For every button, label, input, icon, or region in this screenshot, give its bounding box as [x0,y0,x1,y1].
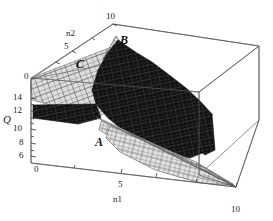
z-tick-10: 10 [13,124,22,133]
x-axis-title: n1 [113,195,122,204]
z-tick-14: 14 [13,93,22,102]
x-tick-0: 0 [34,165,39,174]
region-label-c: C [76,58,84,70]
region-label-b: B [120,34,128,46]
z-axis-title: Q [3,114,11,125]
x-tick-5: 5 [118,180,123,189]
region-label-a: A [95,136,103,148]
y-tick-10: 10 [106,12,115,21]
y-axis-title: n2 [66,29,75,38]
z-tick-12: 12 [13,106,22,115]
dark-surface-left-wedge [33,104,101,124]
z-tick-8: 8 [19,138,24,147]
x-tick-10: 10 [231,205,240,214]
y-tick-5: 5 [64,42,69,51]
surface-plot-figure: 14 12 10 8 6 Q 0 5 10 n1 0 5 10 n2 A B C [0,0,273,221]
z-tick-6: 6 [19,151,24,160]
plot-canvas [0,0,273,221]
y-tick-0: 0 [24,72,29,81]
